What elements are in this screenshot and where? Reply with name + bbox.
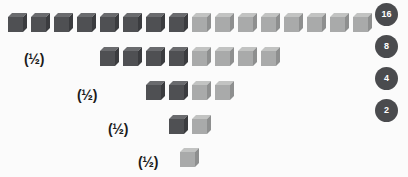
cube-dark xyxy=(146,47,165,66)
cube-light xyxy=(215,13,234,32)
cube-side-face xyxy=(322,13,326,32)
cube-side-face xyxy=(230,13,234,32)
cube-front-face xyxy=(100,17,115,32)
cube-front-face xyxy=(192,119,207,134)
cube-dark xyxy=(123,13,142,32)
cube-front-face xyxy=(77,17,92,32)
half-label-row-3: (½) xyxy=(77,88,97,102)
cube-side-face xyxy=(299,13,303,32)
cube-front-face xyxy=(238,51,253,66)
cube-dark xyxy=(169,13,188,32)
cube-side-face xyxy=(184,81,188,100)
cube-side-face xyxy=(115,47,119,66)
cube-dark xyxy=(100,13,119,32)
cube-front-face xyxy=(169,119,184,134)
cube-light xyxy=(192,81,211,100)
cube-front-face xyxy=(215,51,230,66)
cube-dark xyxy=(146,81,165,100)
half-label-row-4: (½) xyxy=(108,122,128,136)
cube-side-face xyxy=(92,13,96,32)
cube-front-face xyxy=(169,17,184,32)
cube-side-face xyxy=(161,47,165,66)
cube-dark xyxy=(54,13,73,32)
cube-side-face xyxy=(161,81,165,100)
half-label-row-5: (½) xyxy=(138,155,158,169)
cube-front-face xyxy=(353,17,368,32)
cube-side-face xyxy=(368,13,372,32)
cube-light xyxy=(261,47,280,66)
half-label-row-2: (½) xyxy=(24,52,44,66)
cube-light xyxy=(215,47,234,66)
cube-side-face xyxy=(230,81,234,100)
cube-front-face xyxy=(8,17,23,32)
cube-front-face xyxy=(215,85,230,100)
cube-front-face xyxy=(261,17,276,32)
cube-dark xyxy=(100,47,119,66)
cube-side-face xyxy=(345,13,349,32)
cube-light xyxy=(261,13,280,32)
cube-light xyxy=(238,13,257,32)
cube-side-face xyxy=(207,13,211,32)
cube-side-face xyxy=(46,13,50,32)
cube-front-face xyxy=(192,85,207,100)
cube-light xyxy=(307,13,326,32)
cube-front-face xyxy=(123,17,138,32)
cube-light xyxy=(215,81,234,100)
cube-side-face xyxy=(23,13,27,32)
cube-light xyxy=(353,13,372,32)
cube-light xyxy=(192,47,211,66)
cube-front-face xyxy=(192,17,207,32)
cube-dark xyxy=(169,81,188,100)
count-badge-4: 4 xyxy=(375,67,398,90)
cube-side-face xyxy=(207,115,211,134)
cube-side-face xyxy=(276,13,280,32)
cube-front-face xyxy=(192,51,207,66)
cube-light xyxy=(180,148,199,167)
cube-dark xyxy=(123,47,142,66)
cube-side-face xyxy=(138,13,142,32)
cube-front-face xyxy=(123,51,138,66)
cube-front-face xyxy=(284,17,299,32)
cube-side-face xyxy=(253,47,257,66)
cube-side-face xyxy=(276,47,280,66)
cube-light xyxy=(238,47,257,66)
cube-front-face xyxy=(261,51,276,66)
cube-front-face xyxy=(54,17,69,32)
cube-front-face xyxy=(146,51,161,66)
cube-dark xyxy=(169,115,188,134)
cube-front-face xyxy=(100,51,115,66)
cube-dark xyxy=(31,13,50,32)
count-badge-8: 8 xyxy=(375,35,398,58)
cube-side-face xyxy=(161,13,165,32)
diagram-canvas: (½)(½)(½)(½) 16842 xyxy=(0,0,408,177)
cube-front-face xyxy=(169,85,184,100)
cube-side-face xyxy=(69,13,73,32)
cube-dark xyxy=(8,13,27,32)
count-badge-16: 16 xyxy=(375,3,398,26)
cube-front-face xyxy=(215,17,230,32)
cube-light xyxy=(192,13,211,32)
cube-side-face xyxy=(195,148,199,167)
cube-side-face xyxy=(207,47,211,66)
cube-light xyxy=(192,115,211,134)
cube-side-face xyxy=(115,13,119,32)
count-badge-2: 2 xyxy=(375,99,398,122)
cube-front-face xyxy=(330,17,345,32)
cube-side-face xyxy=(253,13,257,32)
cube-dark xyxy=(146,13,165,32)
cube-dark xyxy=(169,47,188,66)
cube-side-face xyxy=(184,13,188,32)
cube-light xyxy=(284,13,303,32)
cube-front-face xyxy=(180,152,195,167)
cube-dark xyxy=(77,13,96,32)
cube-side-face xyxy=(230,47,234,66)
cube-front-face xyxy=(31,17,46,32)
cube-front-face xyxy=(307,17,322,32)
cube-light xyxy=(330,13,349,32)
cube-front-face xyxy=(146,85,161,100)
cube-side-face xyxy=(184,115,188,134)
cube-front-face xyxy=(169,51,184,66)
cube-side-face xyxy=(184,47,188,66)
cube-front-face xyxy=(146,17,161,32)
cube-side-face xyxy=(207,81,211,100)
